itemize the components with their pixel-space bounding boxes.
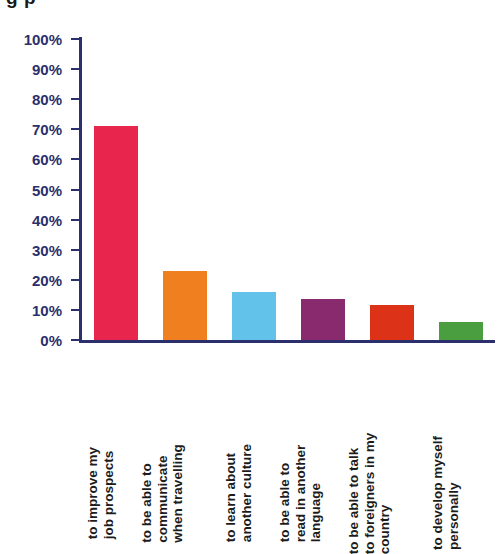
bar	[439, 322, 483, 340]
x-axis-category-text: to be able tocommunicatewhen travelling	[139, 444, 186, 542]
x-axis-category-line: when travelling	[170, 444, 186, 542]
x-axis-category-line: to be able to	[139, 444, 155, 542]
x-axis-category-line: country	[376, 432, 392, 554]
x-axis-category-text: to develop myselfpersonally	[430, 436, 461, 550]
bar	[301, 299, 345, 340]
bar	[370, 305, 414, 340]
x-axis-category-text: to be able toread in anotherlanguage	[276, 444, 323, 542]
x-axis-category-line: another culture	[239, 444, 255, 542]
x-axis-category-line: to learn about	[223, 444, 239, 542]
x-axis-category-line: to improve my	[85, 447, 101, 539]
bar	[94, 126, 138, 340]
x-axis-category-line: language	[307, 444, 323, 542]
x-axis-category-line: to be able to	[276, 444, 292, 542]
x-axis-category-text: to learn aboutanother culture	[223, 444, 254, 542]
bar	[232, 292, 276, 340]
x-axis-category-line: job prospects	[101, 447, 117, 539]
x-axis-category-label: to develop myselfpersonally	[426, 345, 495, 493]
x-axis-labels: to improve myjob prospectsto be able toc…	[0, 345, 503, 495]
bar	[163, 271, 207, 340]
x-axis-category-line: to be able to talk	[345, 432, 361, 554]
x-axis-category-text: to be able to talkto foreigners in mycou…	[345, 432, 392, 554]
x-axis-category-label: to be able to talkto foreigners in mycou…	[357, 345, 426, 493]
x-axis-category-label: to be able tocommunicatewhen travelling	[151, 345, 220, 493]
x-axis-category-line: to foreigners in my	[361, 432, 377, 554]
x-axis-category-line: personally	[445, 436, 461, 550]
x-axis-category-line: to develop myself	[430, 436, 446, 550]
x-axis-category-line: communicate	[154, 444, 170, 542]
x-axis-category-line: read in another	[292, 444, 308, 542]
x-axis-category-text: to improve myjob prospects	[85, 447, 116, 539]
